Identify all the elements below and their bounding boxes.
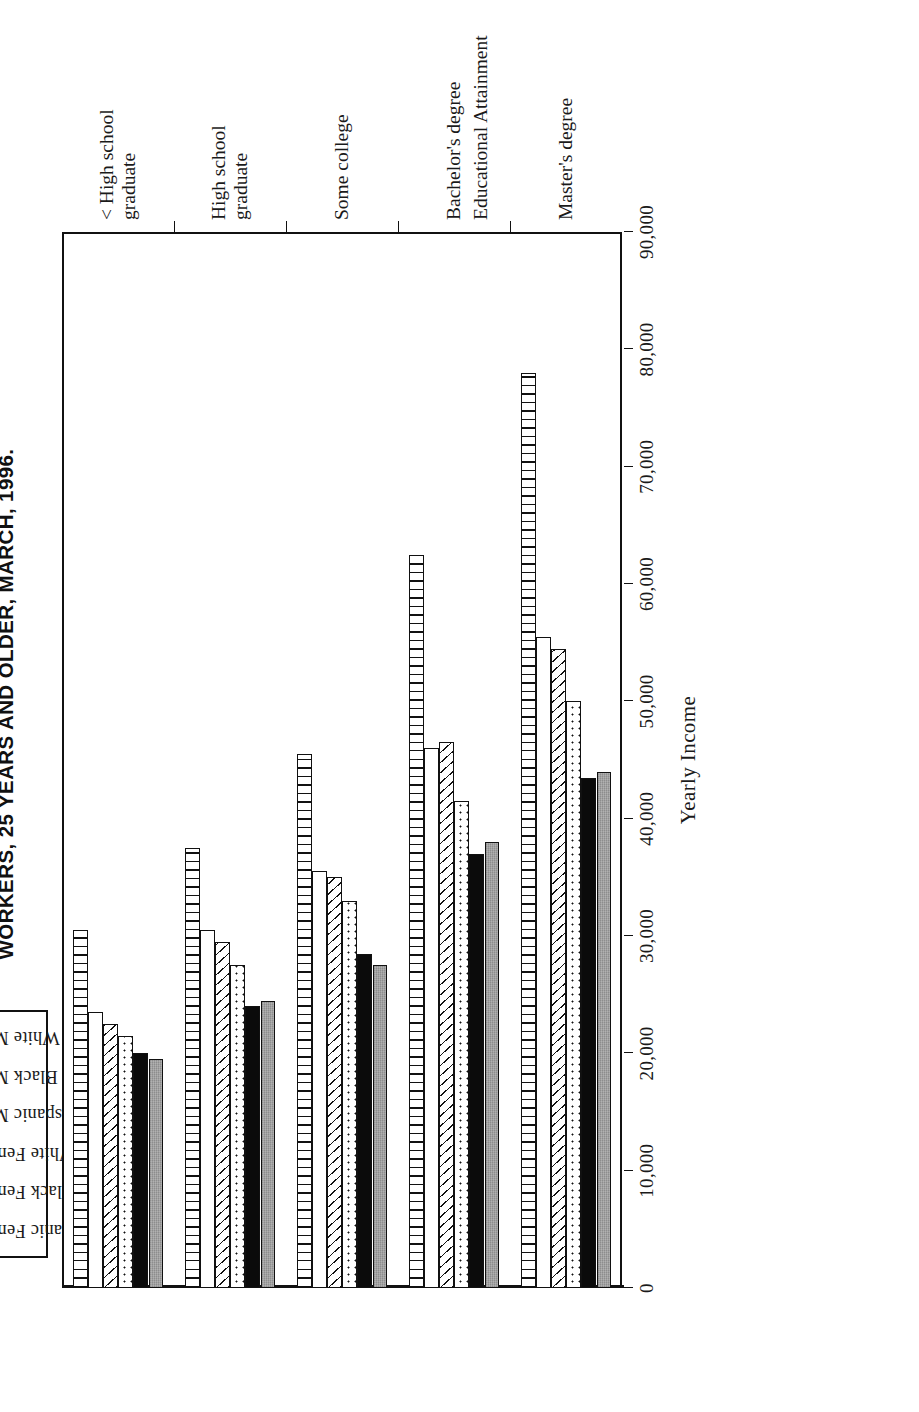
- legend-label: Black Male: [0, 1066, 58, 1087]
- category-tick-2: [398, 221, 399, 232]
- bar-black-male-3: [424, 748, 439, 1288]
- bar-hispanic-male-2: [327, 877, 342, 1288]
- value-tick-50000: [624, 700, 633, 701]
- category-tick-0: [174, 221, 175, 232]
- value-tick-label-0: 0: [636, 1283, 658, 1293]
- value-tick-20000: [624, 1052, 633, 1053]
- bar-black-female-2: [357, 954, 372, 1288]
- bar-hispanic-female-3: [485, 842, 500, 1288]
- bar-hispanic-female-0: [149, 1059, 164, 1288]
- category-label-0: < High school graduate: [96, 70, 140, 220]
- value-tick-label-70000: 70,000: [636, 440, 658, 494]
- rotated-figure-stage: WORKERS, 25 YEARS AND OLDER, MARCH, 1996…: [0, 0, 919, 1412]
- bar-black-female-4: [581, 778, 596, 1288]
- legend-label: White Male: [0, 1027, 60, 1048]
- bar-black-male-1: [200, 930, 215, 1288]
- chart-legend: Hispanic FemaleBlack FemaleWhite FemaleH…: [0, 1010, 48, 1258]
- bar-white-male-0: [73, 930, 88, 1288]
- category-axis-title: Educational Attainment: [470, 20, 492, 220]
- value-tick-60000: [624, 583, 633, 584]
- value-tick-label-40000: 40,000: [636, 792, 658, 846]
- category-tick-3: [510, 221, 511, 232]
- bar-black-male-4: [536, 637, 551, 1288]
- category-label-4: Master's degree: [555, 70, 577, 220]
- bar-white-male-4: [521, 373, 536, 1288]
- value-tick-label-20000: 20,000: [636, 1026, 658, 1080]
- bar-hispanic-male-4: [551, 649, 566, 1288]
- bar-hispanic-male-3: [439, 742, 454, 1288]
- bar-black-female-1: [245, 1006, 260, 1288]
- bar-black-female-3: [469, 854, 484, 1288]
- category-label-3: Bachelor's degree: [443, 70, 465, 220]
- value-tick-10000: [624, 1170, 633, 1171]
- bar-hispanic-female-4: [597, 772, 612, 1288]
- bar-white-female-3: [454, 801, 469, 1288]
- category-label-1: High school graduate: [208, 70, 252, 220]
- bar-white-female-4: [566, 701, 581, 1288]
- category-label-2: Some college: [331, 70, 353, 220]
- value-tick-90000: [624, 231, 633, 232]
- bar-white-female-0: [118, 1036, 133, 1288]
- value-axis-title: Yearly Income: [676, 232, 701, 1288]
- value-tick-label-30000: 30,000: [636, 909, 658, 963]
- bar-black-male-0: [88, 1012, 103, 1288]
- value-tick-label-60000: 60,000: [636, 557, 658, 611]
- bar-white-male-1: [185, 848, 200, 1288]
- value-tick-30000: [624, 935, 633, 936]
- bar-white-male-3: [409, 555, 424, 1288]
- value-tick-80000: [624, 348, 633, 349]
- chart-figure: WORKERS, 25 YEARS AND OLDER, MARCH, 1996…: [0, 0, 919, 1412]
- bar-white-female-2: [342, 901, 357, 1288]
- bar-black-female-0: [133, 1053, 148, 1288]
- value-tick-label-90000: 90,000: [636, 205, 658, 259]
- value-tick-70000: [624, 466, 633, 467]
- bar-hispanic-female-1: [261, 1001, 276, 1288]
- bar-white-male-2: [297, 754, 312, 1288]
- value-tick-40000: [624, 818, 633, 819]
- value-tick-label-50000: 50,000: [636, 674, 658, 728]
- bar-hispanic-male-0: [103, 1024, 118, 1288]
- bar-hispanic-male-1: [215, 942, 230, 1288]
- value-tick-label-10000: 10,000: [636, 1144, 658, 1198]
- category-tick-1: [286, 221, 287, 232]
- value-tick-0: [624, 1287, 633, 1288]
- value-tick-label-80000: 80,000: [636, 322, 658, 376]
- bar-white-female-1: [230, 965, 245, 1288]
- bar-black-male-2: [312, 871, 327, 1288]
- bar-hispanic-female-2: [373, 965, 388, 1288]
